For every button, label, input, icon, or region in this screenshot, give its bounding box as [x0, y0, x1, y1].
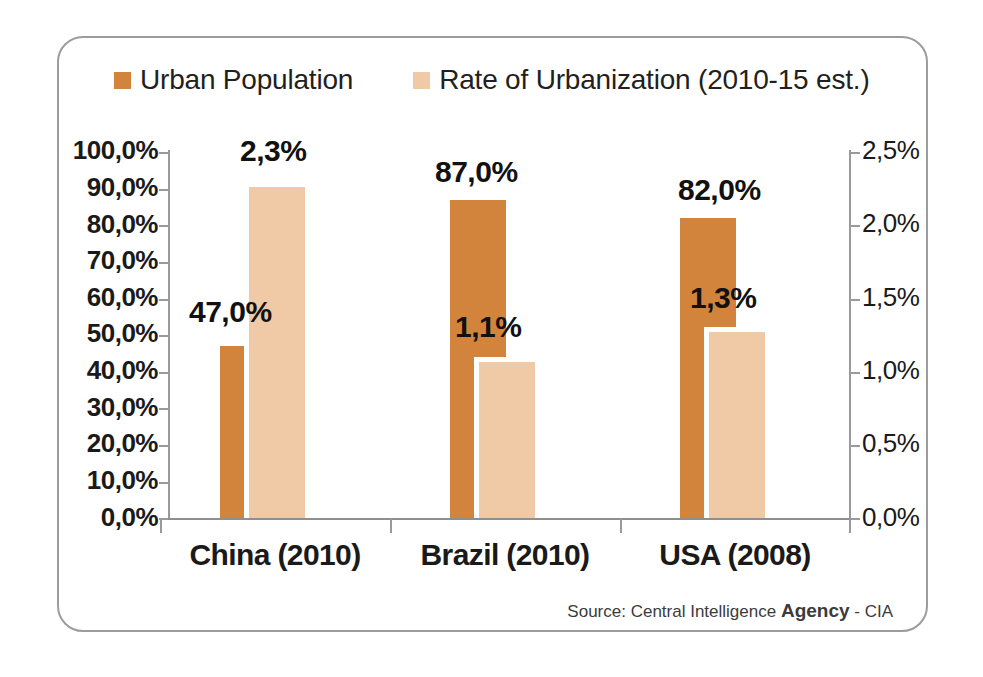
value-label-rate-china: 2,3% [240, 134, 306, 168]
source-suffix: - CIA [850, 602, 893, 621]
right-axis-tick-label: 0,0% [862, 502, 962, 533]
category-axis-line [160, 518, 858, 520]
left-axis-tick [159, 408, 168, 410]
value-label-urban-china: 47,0% [189, 295, 272, 329]
left-axis-labels: 100,0% 90,0% 80,0% 70,0% 60,0% 50,0% 40,… [28, 0, 158, 677]
right-axis-labels: 2,5% 2,0% 1,5% 1,0% 0,5% 0,0% [862, 0, 972, 677]
left-axis-tick-label: 20,0% [38, 428, 158, 459]
bar-rate-usa[interactable] [704, 327, 770, 518]
legend-label: Rate of Urbanization (2010-15 est.) [439, 64, 869, 96]
square-swatch-icon [413, 72, 430, 89]
left-axis-tick-label: 50,0% [38, 318, 158, 349]
right-axis-tick-label: 2,0% [862, 208, 962, 239]
right-axis-tick-label: 0,5% [862, 428, 962, 459]
category-separator-tick [620, 519, 622, 533]
value-label-rate-usa: 1,3% [690, 281, 756, 315]
left-axis-tick-label: 0,0% [38, 502, 158, 533]
right-axis-tick [851, 299, 860, 301]
right-axis-tick [851, 372, 860, 374]
left-axis-tick [159, 482, 168, 484]
right-axis-tick [851, 445, 860, 447]
legend-item-rate-of-urbanization[interactable]: Rate of Urbanization (2010-15 est.) [413, 64, 869, 96]
category-separator-tick [160, 519, 162, 533]
chart-page: Urban Population Rate of Urbanization (2… [0, 0, 983, 677]
left-axis-tick-label: 100,0% [38, 135, 158, 166]
bar-rate-brazil[interactable] [474, 357, 540, 518]
category-label-brazil: Brazil (2010) [390, 538, 620, 572]
category-label-usa: USA (2008) [620, 538, 850, 572]
left-axis-tick [159, 335, 168, 337]
left-axis-tick-label: 90,0% [38, 172, 158, 203]
left-axis-tick [159, 189, 168, 191]
value-label-urban-usa: 82,0% [678, 173, 761, 207]
left-axis-tick [159, 299, 168, 301]
left-axis-tick [159, 225, 168, 227]
legend-label: Urban Population [140, 64, 353, 96]
chart-legend: Urban Population Rate of Urbanization (2… [114, 60, 870, 100]
category-label-china: China (2010) [160, 538, 390, 572]
left-axis-tick [159, 152, 168, 154]
left-axis-tick-label: 30,0% [38, 392, 158, 423]
right-axis-tick-label: 1,0% [862, 355, 962, 386]
left-axis-tick-label: 60,0% [38, 282, 158, 313]
category-separator-tick [849, 519, 851, 533]
right-axis-tick [851, 518, 860, 520]
right-axis-tick [851, 225, 860, 227]
source-emphasis: Agency [781, 600, 850, 621]
value-label-urban-brazil: 87,0% [435, 155, 518, 189]
left-axis-tick-label: 40,0% [38, 355, 158, 386]
left-axis-tick [159, 262, 168, 264]
left-axis-tick [159, 445, 168, 447]
right-axis-tick-label: 2,5% [862, 135, 962, 166]
bar-rate-china[interactable] [244, 182, 310, 518]
left-axis-tick [159, 372, 168, 374]
source-prefix: Source: Central Intelligence [567, 602, 781, 621]
right-axis-tick [851, 152, 860, 154]
left-axis-tick-label: 80,0% [38, 209, 158, 240]
right-axis-tick-label: 1,5% [862, 282, 962, 313]
category-separator-tick [390, 519, 392, 533]
left-axis-tick-label: 10,0% [38, 465, 158, 496]
left-axis-tick-label: 70,0% [38, 245, 158, 276]
value-label-rate-brazil: 1,1% [455, 310, 521, 344]
source-note: Source: Central Intelligence Agency - CI… [567, 600, 893, 622]
